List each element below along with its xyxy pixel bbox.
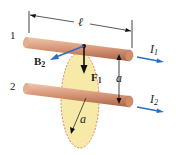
separation-label: a — [116, 71, 122, 85]
current-2-label: I2 — [149, 92, 158, 107]
parallel-wires-diagram: ℓ 1 2 a a F1 B2 I1 — [0, 0, 176, 155]
radius-label: a — [80, 112, 86, 126]
force-label: F1 — [91, 71, 102, 85]
current-1-label: I1 — [149, 42, 158, 57]
wire-2-label: 2 — [10, 80, 16, 92]
length-label: ℓ — [78, 15, 83, 29]
current-1-arrow — [137, 57, 164, 63]
wire-1-label: 1 — [10, 29, 16, 41]
current-2-arrow — [137, 107, 164, 113]
field-label: B2 — [34, 55, 45, 69]
